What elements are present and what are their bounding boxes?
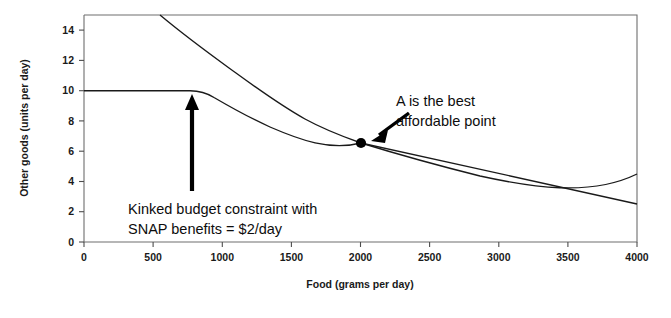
chart-background	[0, 0, 671, 318]
kink-annotation-line1: Kinked budget constraint with	[128, 201, 317, 217]
optimum-annotation-line1: A is the best	[396, 93, 475, 109]
y-tick-label: 10	[62, 84, 74, 96]
y-tick-label: 12	[62, 54, 74, 66]
x-tick-label: 500	[144, 251, 162, 263]
x-tick-label: 2000	[349, 251, 373, 263]
optimum-annotation-line2: affordable point	[396, 113, 496, 129]
y-tick-label: 4	[68, 175, 74, 187]
y-tick-label: 0	[68, 236, 74, 248]
x-tick-label: 1500	[280, 251, 304, 263]
x-tick-label: 4000	[625, 251, 649, 263]
y-axis-title: Other goods (units per day)	[18, 59, 30, 197]
x-tick-label: 3000	[487, 251, 511, 263]
x-tick-label: 1000	[211, 251, 235, 263]
x-tick-label: 0	[81, 251, 87, 263]
y-tick-label: 6	[68, 145, 74, 157]
x-tick-label: 2500	[418, 251, 442, 263]
economics-chart: 0 2 4 6 8 10 12 14 0 500 1000 1500 2000 …	[0, 0, 671, 318]
y-tick-label: 2	[68, 205, 74, 217]
kink-annotation-line2: SNAP benefits = $2/day	[128, 221, 283, 237]
y-tick-label: 14	[62, 24, 74, 36]
x-axis-title: Food (grams per day)	[306, 278, 413, 290]
x-tick-label: 3500	[556, 251, 580, 263]
y-tick-label: 8	[68, 115, 74, 127]
point-a-marker	[356, 138, 366, 148]
